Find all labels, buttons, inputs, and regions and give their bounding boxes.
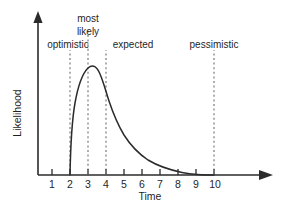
- x-tick-label-4: 4: [103, 178, 109, 190]
- likelihood-curve: [70, 66, 214, 175]
- x-tick-labels: 1 2 3 4 5 6 7 8 9 10: [49, 178, 221, 190]
- x-tick-label-7: 7: [157, 178, 163, 190]
- x-tick-label-1: 1: [49, 178, 55, 190]
- x-tick-label-8: 8: [175, 178, 181, 190]
- likelihood-time-chart: Likelihood Time 1 2 3 4 5 6 7 8 9 10 opt…: [0, 0, 285, 212]
- y-axis-title: Likelihood: [11, 89, 23, 136]
- annotation-pessimistic: pessimistic: [190, 39, 239, 50]
- x-tick-label-5: 5: [121, 178, 127, 190]
- x-tick-label-9: 9: [193, 178, 199, 190]
- y-axis-arrowhead: [33, 11, 42, 23]
- x-tick-label-3: 3: [85, 178, 91, 190]
- x-axis-title: Time: [139, 190, 162, 202]
- chart-canvas: Likelihood Time 1 2 3 4 5 6 7 8 9 10 opt…: [0, 0, 285, 212]
- x-tick-label-2: 2: [67, 178, 73, 190]
- annotation-optimistic: optimistic: [47, 39, 89, 50]
- annotation-likely: likely: [77, 26, 99, 37]
- x-tick-label-6: 6: [139, 178, 145, 190]
- annotation-expected: expected: [113, 39, 154, 50]
- x-axis-arrowhead: [259, 170, 273, 180]
- annotation-most: most: [77, 13, 99, 24]
- x-tick-label-10: 10: [209, 178, 221, 190]
